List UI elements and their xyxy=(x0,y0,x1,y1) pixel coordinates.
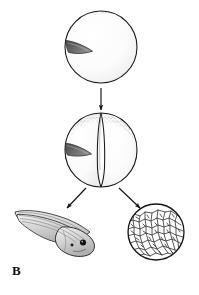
tadpole-eye xyxy=(80,240,86,246)
tadpole-eye-highlight xyxy=(81,241,83,243)
stage-fertilized-egg xyxy=(65,11,142,83)
stage-two-cell xyxy=(65,113,137,187)
figure-panel: B xyxy=(0,0,199,295)
tadpole-pigment-spot xyxy=(71,244,74,247)
panel-label: B xyxy=(12,264,21,277)
embryo-development-diagram xyxy=(0,0,199,295)
arrow-two-cell-to-cell-mass xyxy=(119,188,140,208)
stage-cell-mass xyxy=(127,204,184,260)
arrow-two-cell-to-tadpole xyxy=(67,188,86,208)
stage-tadpole xyxy=(15,211,95,257)
